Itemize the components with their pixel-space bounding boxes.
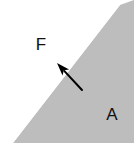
figure-canvas: F A (0, 0, 134, 156)
figure-container: F A (0, 0, 134, 156)
region-label-f: F (36, 35, 46, 54)
region-label-a: A (106, 105, 118, 124)
